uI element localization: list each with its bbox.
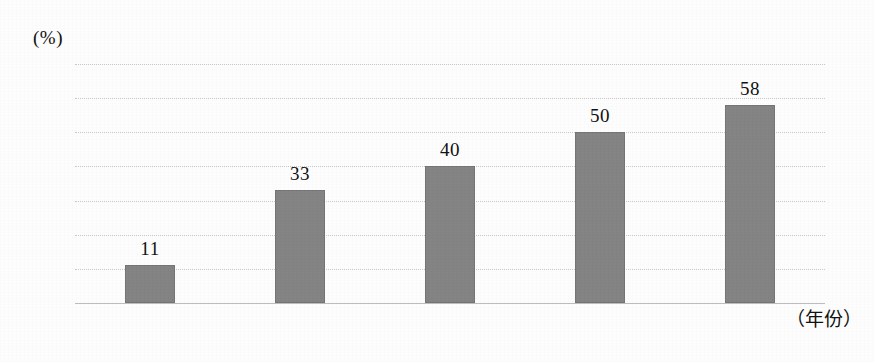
- gridline: [75, 132, 825, 133]
- bar-value-label: 58: [710, 79, 790, 98]
- bar: [575, 132, 625, 303]
- bar: [725, 105, 775, 303]
- x-axis-baseline: [75, 303, 825, 304]
- bar: [125, 265, 175, 303]
- gridline: [75, 98, 825, 99]
- bar-value-label: 33: [260, 164, 340, 183]
- x-axis-title: （年份）: [786, 309, 862, 331]
- y-axis-unit-label: (%): [33, 28, 63, 47]
- bar-value-label: 50: [560, 106, 640, 125]
- plot-area: 7060504030201001120073320094020115020135…: [75, 64, 825, 303]
- bar-value-label: 11: [110, 239, 190, 258]
- bar-chart-figure: (%) 706050403020100112007332009402011502…: [0, 0, 874, 362]
- gridline: [75, 64, 825, 65]
- bar: [275, 190, 325, 303]
- bar-value-label: 40: [410, 140, 490, 159]
- bar: [425, 166, 475, 303]
